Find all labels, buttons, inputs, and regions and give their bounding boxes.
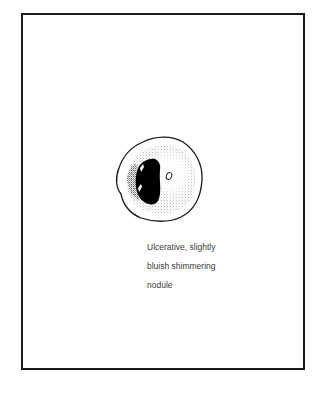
caption-line: nodule — [147, 281, 216, 291]
caption-line: Ulcerative, slightly — [147, 243, 216, 253]
caption-line: bluish shimmering — [147, 262, 216, 272]
nodule-illustration — [113, 134, 207, 226]
figure-caption: Ulcerative, slightly bluish shimmering n… — [147, 233, 216, 300]
